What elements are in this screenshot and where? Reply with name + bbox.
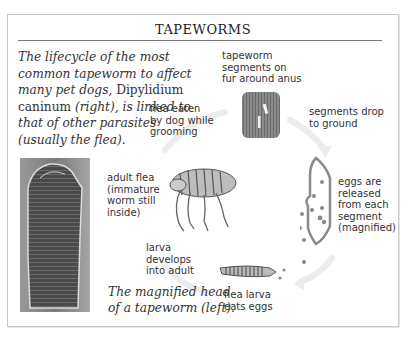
label-segments-on-fur: tapeworm segments on fur around anus [222, 50, 302, 85]
label-segments-drop: segments drop to ground [309, 106, 384, 129]
fur-segments-image [240, 90, 282, 140]
label-adult-flea: adult flea (immature worm still inside) [107, 172, 160, 218]
tapeworm-head-photo [20, 158, 90, 312]
label-flea-eaten: flea eaten by dog while grooming [150, 103, 214, 138]
flea-larva-illustration [218, 262, 288, 282]
adult-flea-illustration [160, 165, 240, 235]
label-eggs-released: eggs are released from each segment (mag… [338, 176, 396, 234]
magnified-segment [300, 156, 340, 286]
photo-caption: The magnified head of a tapeworm (left). [108, 284, 235, 316]
label-larva-develops: larva develops into adult [146, 242, 194, 277]
